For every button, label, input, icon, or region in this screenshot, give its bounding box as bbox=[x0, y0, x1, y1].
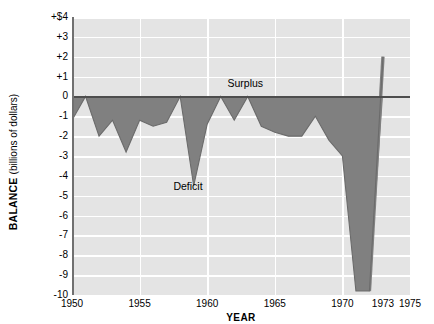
surplus-label: Surplus bbox=[227, 77, 263, 89]
y-axis-tick-labels: +$4+3+2+10-1-2-3-4-5-6-7-8-9-10 bbox=[26, 11, 72, 301]
y-axis-tick-label: +1 bbox=[57, 71, 68, 83]
y-axis-title-main: BALANCE bbox=[7, 177, 19, 230]
deficit-area-fill bbox=[72, 96, 383, 291]
y-axis-tick-label: -4 bbox=[59, 170, 68, 182]
y-axis-tick-label: -1 bbox=[59, 110, 68, 122]
y-axis-title-units: (billions of dollars) bbox=[8, 94, 19, 175]
y-axis-tick-label: -2 bbox=[59, 130, 68, 142]
x-axis-tick-label: 1975 bbox=[399, 298, 421, 309]
y-axis-tick-label: -3 bbox=[59, 150, 68, 162]
x-axis-title: YEAR bbox=[72, 312, 410, 323]
x-axis-tick-labels: 1950195519601965197019731975 bbox=[0, 298, 434, 312]
deficit-label: Deficit bbox=[173, 180, 202, 192]
plot-area: Surplus Deficit bbox=[72, 17, 410, 295]
balance-of-payments-chart: BALANCE (billions of dollars) +$4+3+2+10… bbox=[0, 0, 434, 324]
y-axis-tick-label: 0 bbox=[62, 90, 68, 102]
y-axis-tick-label: -5 bbox=[59, 190, 68, 202]
x-axis-tick-label: 1960 bbox=[196, 298, 218, 309]
x-axis-tick-label: 1950 bbox=[61, 298, 83, 309]
y-axis-tick-label: +2 bbox=[57, 51, 68, 63]
y-axis-tick-label: -9 bbox=[59, 269, 68, 281]
x-axis-tick-label: 1970 bbox=[331, 298, 353, 309]
y-axis-tick-label: -7 bbox=[59, 229, 68, 241]
y-axis-title: BALANCE (billions of dollars) bbox=[0, 0, 26, 324]
x-axis-tick-label: 1973 bbox=[372, 298, 394, 309]
y-axis-tick-label: -8 bbox=[59, 249, 68, 261]
y-axis-tick-label: +$4 bbox=[51, 11, 68, 23]
y-axis-tick-label: +3 bbox=[57, 31, 68, 43]
zero-baseline bbox=[72, 96, 410, 98]
series-outline bbox=[72, 57, 383, 291]
y-axis-tick-label: -6 bbox=[59, 210, 68, 222]
x-axis-tick-label: 1955 bbox=[128, 298, 150, 309]
area-series-balance bbox=[72, 17, 410, 295]
x-axis-tick-label: 1965 bbox=[264, 298, 286, 309]
